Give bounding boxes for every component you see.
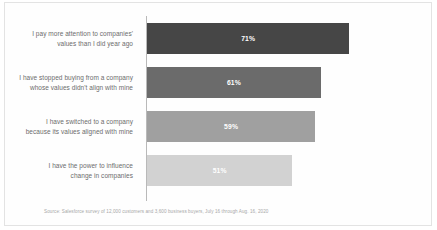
category-label-line: I pay more attention to companies' bbox=[32, 29, 133, 39]
category-label-line: I have stopped buying from a company bbox=[19, 73, 133, 83]
category-label: I have the power to influence change in … bbox=[5, 155, 139, 186]
bar-value-label: 61% bbox=[147, 67, 321, 98]
chart-card: I pay more attention to companies' value… bbox=[4, 2, 432, 226]
category-label-line: values than I did year ago bbox=[57, 39, 133, 49]
category-label-line: I have switched to a company bbox=[46, 117, 133, 127]
category-label-line: whose values didn't align with mine bbox=[30, 83, 133, 93]
category-label: I have switched to a company because its… bbox=[5, 111, 139, 142]
category-label: I have stopped buying from a company who… bbox=[5, 67, 139, 98]
bar-value-label: 51% bbox=[147, 155, 292, 186]
bar-row: I pay more attention to companies' value… bbox=[5, 23, 433, 54]
category-label-line: I have the power to influence bbox=[48, 161, 133, 171]
bar-row: I have switched to a company because its… bbox=[5, 111, 433, 142]
bar-row: I have stopped buying from a company who… bbox=[5, 67, 433, 98]
bar-value-label: 59% bbox=[147, 111, 315, 142]
bar-value-label: 71% bbox=[147, 23, 349, 54]
category-label: I pay more attention to companies' value… bbox=[5, 23, 139, 54]
category-label-line: because its values aligned with mine bbox=[26, 127, 133, 137]
source-note: Source: Salesforce survey of 12,000 cust… bbox=[44, 208, 424, 216]
bar-chart-plot-area: I pay more attention to companies' value… bbox=[5, 3, 433, 227]
category-label-line: change in companies bbox=[71, 171, 133, 181]
bar-row: I have the power to influence change in … bbox=[5, 155, 433, 186]
